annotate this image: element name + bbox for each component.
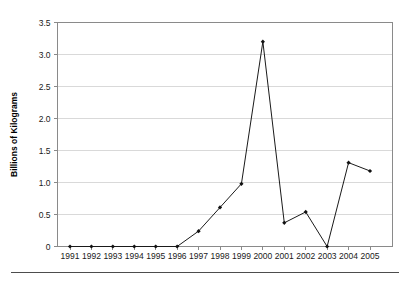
x-tick-label: 1993 — [103, 251, 122, 261]
y-tick-label: 2.5 — [39, 82, 51, 92]
chart-background — [0, 0, 409, 285]
y-tick-label: 3.5 — [39, 18, 51, 28]
x-tick-label: 1996 — [168, 251, 187, 261]
x-tick-label: 1995 — [146, 251, 165, 261]
x-tick-label: 2004 — [339, 251, 358, 261]
x-tick-label: 2000 — [253, 251, 272, 261]
x-tick-label: 2003 — [318, 251, 337, 261]
y-tick-label: 1.5 — [39, 146, 51, 156]
y-tick-label: 2.0 — [39, 114, 51, 124]
y-axis-title: Billions of Kilograms — [9, 92, 19, 177]
x-tick-label: 1999 — [232, 251, 251, 261]
y-tick-label: 1.0 — [39, 178, 51, 188]
y-tick-label: 0 — [46, 242, 51, 252]
x-tick-label: 2001 — [275, 251, 294, 261]
x-tick-label: 1991 — [61, 251, 80, 261]
x-tick-label: 2005 — [361, 251, 380, 261]
y-tick-label: 3.0 — [39, 50, 51, 60]
y-tick-label: 0.5 — [39, 210, 51, 220]
chart-svg: 00.51.01.52.02.53.03.5 19911992199319941… — [0, 0, 409, 285]
x-tick-label: 1992 — [82, 251, 101, 261]
line-chart-figure: 00.51.01.52.02.53.03.5 19911992199319941… — [0, 0, 409, 285]
x-tick-label: 1997 — [189, 251, 208, 261]
x-tick-label: 1998 — [211, 251, 230, 261]
x-tick-label: 1994 — [125, 251, 144, 261]
x-tick-label: 2002 — [296, 251, 315, 261]
chart-page: 00.51.01.52.02.53.03.5 19911992199319941… — [0, 0, 409, 285]
